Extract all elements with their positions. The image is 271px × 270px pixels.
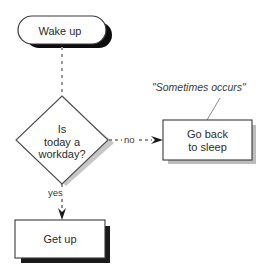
flowchart-svg xyxy=(0,0,271,270)
node-get-up-shape[interactable] xyxy=(15,220,105,258)
arrowhead-to-sleep-icon xyxy=(151,136,163,144)
annotation-leader-line xyxy=(207,98,220,120)
edge-label-yes: yes xyxy=(48,188,63,198)
node-decision-shape[interactable] xyxy=(16,96,108,184)
arrowhead-to-getup-icon xyxy=(58,208,66,220)
edge-label-no: no xyxy=(124,135,135,145)
flowchart-canvas: Wake up Is today a workday? Go back to s… xyxy=(0,0,271,270)
annotation-sometimes-occurs: "Sometimes occurs" xyxy=(152,81,246,93)
node-wake-up-shape[interactable] xyxy=(18,16,106,44)
node-go-back-to-sleep-shape[interactable] xyxy=(163,120,252,160)
